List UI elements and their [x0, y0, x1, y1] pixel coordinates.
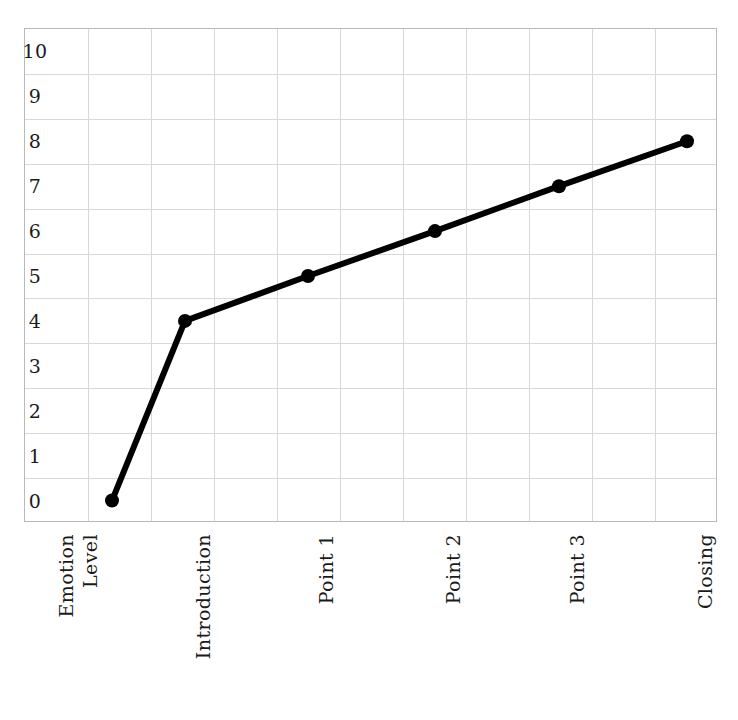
x-axis-tick-label: Introduction	[193, 534, 213, 659]
y-axis-tick-label: 4	[3, 311, 67, 330]
x-axis-tick-label: Closing	[695, 534, 715, 609]
x-axis-tick-label: Point 2	[443, 534, 463, 604]
y-axis-tick-label: 8	[3, 132, 67, 151]
data-point-marker	[428, 224, 442, 238]
y-axis-tick-label: 10	[3, 42, 67, 61]
series-line	[112, 141, 687, 500]
data-point-marker	[301, 269, 315, 283]
x-axis-tick-label: Point 1	[316, 534, 336, 604]
plot-area: 109876543210	[24, 28, 717, 522]
y-axis-title-line-2: Level	[80, 534, 100, 588]
y-axis-tick-label: 2	[3, 401, 67, 420]
y-axis-title-line-1: Emotion	[56, 534, 76, 618]
y-axis-tick-label: 1	[3, 446, 67, 465]
y-axis-tick-label: 6	[3, 222, 67, 241]
y-axis-tick-label: 3	[3, 356, 67, 375]
x-axis-tick-label: Point 3	[567, 534, 587, 604]
y-axis-tick-label: 9	[3, 87, 67, 106]
y-axis-tick-label: 0	[3, 491, 67, 510]
clipped-title-remnant	[0, 0, 738, 4]
data-point-marker	[552, 179, 566, 193]
series-emotion-level	[25, 29, 718, 523]
line-chart: 109876543210 IntroductionPoint 1Point 2P…	[0, 0, 738, 720]
data-point-marker	[680, 134, 694, 148]
y-axis-tick-label: 7	[3, 177, 67, 196]
data-point-marker	[105, 494, 119, 508]
y-axis-tick-label: 5	[3, 267, 67, 286]
data-point-marker	[178, 314, 192, 328]
y-axis-title: Emotion Level	[40, 534, 100, 704]
